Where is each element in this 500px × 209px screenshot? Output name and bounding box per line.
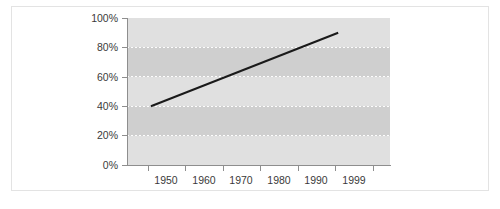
y-axis-label-80: 80%: [78, 42, 118, 53]
y-tick-60: [122, 77, 127, 78]
y-axis-label-100: 100%: [78, 13, 118, 24]
y-tick-100: [122, 18, 127, 19]
gridline-60: [127, 76, 390, 77]
x-tick-1960: [185, 166, 186, 171]
gridline-80: [127, 47, 390, 48]
plot-band-80-100: [127, 18, 390, 47]
x-tick-1980: [260, 166, 261, 171]
x-tick-1970: [223, 166, 224, 171]
x-tick-1990: [298, 166, 299, 171]
y-tick-80: [122, 47, 127, 48]
x-axis-label-1960: 1960: [184, 174, 224, 186]
x-axis-label-1990: 1990: [296, 174, 336, 186]
y-axis-label-40: 40%: [78, 101, 118, 112]
y-axis-label-0: 0%: [78, 160, 118, 171]
plot-band-60-80: [127, 47, 390, 76]
x-axis-label-1980: 1980: [259, 174, 299, 186]
gridline-40: [127, 106, 390, 107]
x-tick-1950: [148, 166, 149, 171]
y-tick-20: [122, 135, 127, 136]
figure-caption: [12, 200, 312, 208]
x-axis-label-1999: 1999: [334, 174, 374, 186]
gridline-20: [127, 135, 390, 136]
y-axis-tick-labels: 100% 80% 60% 40% 20% 0%: [74, 0, 118, 209]
x-tick-1999: [335, 166, 336, 171]
y-axis-line: [127, 18, 128, 166]
plot-band-0-20: [127, 136, 390, 165]
y-axis-label-20: 20%: [78, 130, 118, 141]
y-tick-40: [122, 106, 127, 107]
y-tick-0: [122, 165, 127, 166]
chart-plot-area: [127, 18, 390, 165]
figure-root: 100% 80% 60% 40% 20% 0% 1950 1960 1970 1…: [0, 0, 500, 209]
x-axis-label-1970: 1970: [221, 174, 261, 186]
plot-band-20-40: [127, 106, 390, 135]
plot-band-40-60: [127, 77, 390, 106]
plot-background: [127, 18, 390, 165]
x-axis-line: [127, 165, 391, 166]
x-tick-end: [373, 166, 374, 171]
y-axis-label-60: 60%: [78, 72, 118, 83]
x-axis-label-1950: 1950: [146, 174, 186, 186]
